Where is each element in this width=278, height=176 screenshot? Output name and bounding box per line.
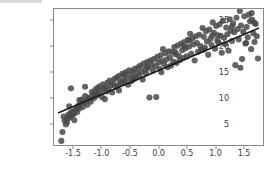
scatter-point xyxy=(146,95,152,101)
scatter-point xyxy=(219,50,225,56)
x-tick-label: 1.0 xyxy=(209,149,222,158)
x-tick-mark xyxy=(129,146,130,149)
scatter-plot-figure: 510152025 -1.5-1.0-0.50.00.51.01.5 xyxy=(0,0,278,176)
x-tick-mark xyxy=(101,146,102,149)
y-tick-mark xyxy=(50,19,53,20)
y-tick-mark xyxy=(50,124,53,125)
scatter-point xyxy=(59,129,65,135)
scatter-point xyxy=(239,56,245,62)
scatter-point xyxy=(209,33,215,39)
scatter-point xyxy=(237,9,243,14)
scatter-point xyxy=(82,84,88,90)
y-tick-mark xyxy=(50,97,53,98)
scatter-point xyxy=(64,119,70,125)
scatter-point xyxy=(244,24,250,30)
scatter-point xyxy=(254,33,260,39)
y-tick-mark xyxy=(50,45,53,46)
scatter-point xyxy=(205,52,211,58)
x-tick-label: 1.5 xyxy=(238,149,251,158)
scatter-point xyxy=(102,96,108,102)
scatter-point xyxy=(243,40,249,46)
scatter-point xyxy=(238,22,244,28)
scatter-point xyxy=(233,15,239,21)
scatter-points xyxy=(58,9,261,144)
scatter-point xyxy=(248,46,254,52)
x-tick-mark xyxy=(158,146,159,149)
x-tick-mark xyxy=(72,146,73,149)
scatter-point xyxy=(237,65,243,71)
scatter-point xyxy=(251,20,257,26)
x-tick-label: -1.0 xyxy=(94,149,110,158)
x-tick-mark xyxy=(244,146,245,149)
y-tick-label: 25 xyxy=(219,15,229,24)
x-tick-label: 0.5 xyxy=(181,149,194,158)
x-tick-label: -1.5 xyxy=(65,149,81,158)
y-tick-label: 10 xyxy=(219,93,229,102)
y-tick-label: 20 xyxy=(219,41,229,50)
scatter-point xyxy=(68,85,74,91)
plot-canvas xyxy=(54,9,263,145)
x-tick-mark xyxy=(215,146,216,149)
scatter-point xyxy=(192,57,198,63)
scatter-point xyxy=(153,94,159,100)
scatter-point xyxy=(245,34,251,40)
scatter-point xyxy=(71,111,77,117)
scatter-point xyxy=(181,44,187,50)
y-tick-label: 5 xyxy=(224,120,229,129)
x-tick-label: 0.0 xyxy=(152,149,165,158)
scatter-point xyxy=(186,37,192,43)
y-tick-label: 15 xyxy=(219,67,229,76)
scatter-point xyxy=(58,138,64,144)
scatter-point xyxy=(172,49,178,55)
y-tick-mark xyxy=(50,71,53,72)
x-tick-label: -0.5 xyxy=(122,149,138,158)
scatter-point xyxy=(229,23,235,29)
scatter-point xyxy=(255,55,261,61)
scatter-point xyxy=(122,71,128,77)
plot-area xyxy=(53,8,264,146)
scatter-point xyxy=(144,64,150,70)
scatter-point xyxy=(251,39,257,45)
scatter-point xyxy=(249,10,255,16)
x-tick-mark xyxy=(187,146,188,149)
scatter-point xyxy=(215,32,221,38)
scatter-point xyxy=(71,117,77,123)
